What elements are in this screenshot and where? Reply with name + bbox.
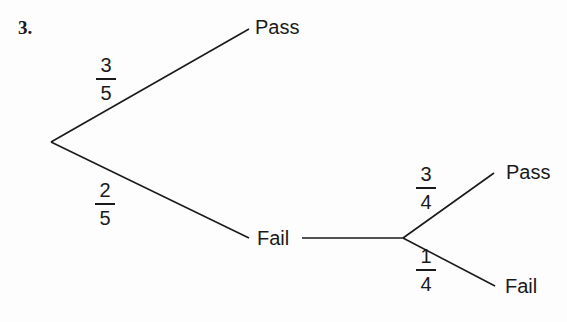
branch-line-fail — [51, 142, 249, 238]
branch-line-pass — [51, 29, 249, 142]
fraction-bar — [416, 187, 436, 189]
outcome-fail-fail: Fail — [505, 276, 537, 296]
probability-3-4: 3 4 — [415, 164, 437, 212]
fraction-bar — [96, 78, 116, 80]
fraction-bar — [416, 269, 436, 271]
probability-1-4: 1 4 — [415, 246, 437, 294]
question-number: 3. — [18, 18, 32, 37]
outcome-fail: Fail — [257, 228, 289, 248]
outcome-pass: Pass — [255, 17, 299, 37]
probability-tree-diagram: 3. 3 5 Pass 2 5 Fail 3 4 Pass 1 4 Fail — [0, 0, 567, 322]
probability-2-5: 2 5 — [94, 180, 116, 228]
tree-lines — [0, 0, 567, 322]
fraction-bar — [95, 203, 115, 205]
probability-3-5: 3 5 — [95, 55, 117, 103]
outcome-fail-pass: Pass — [506, 162, 550, 182]
